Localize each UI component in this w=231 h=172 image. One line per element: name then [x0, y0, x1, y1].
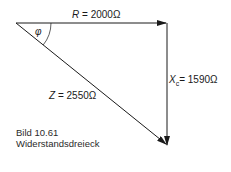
angle-arc [43, 23, 51, 45]
reactance-label: Xc= 1590Ω [169, 74, 218, 86]
angle-label: φ [35, 26, 42, 37]
figure-number: Bild 10.61 [16, 127, 58, 138]
impedance-vector [16, 23, 166, 144]
figure-title: Widerstandsdreieck [16, 138, 99, 149]
resistance-label: R = 2000Ω [72, 9, 120, 20]
impedance-label: Z = 2550Ω [49, 90, 96, 101]
